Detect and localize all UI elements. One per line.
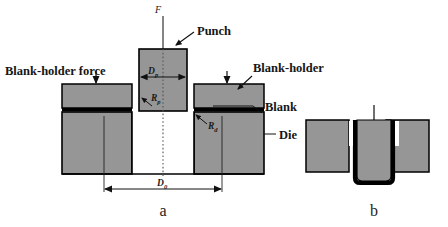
punch-label: Punch bbox=[197, 24, 231, 38]
panel-b-left-block bbox=[306, 120, 349, 172]
panel-a-caption: a bbox=[159, 202, 166, 219]
punch-force-label: F bbox=[154, 4, 162, 15]
punch-radius-symbol: R bbox=[150, 93, 157, 103]
blank-holder-left bbox=[62, 84, 132, 108]
panel-a: F Punch Blank-holder force Blank-holder … bbox=[5, 4, 324, 219]
die-radius-symbol: R bbox=[207, 121, 214, 131]
blank-holder-right bbox=[194, 84, 264, 108]
figure-canvas: F Punch Blank-holder force Blank-holder … bbox=[0, 0, 448, 227]
blank-diameter-symbol: D bbox=[156, 178, 164, 188]
blank-label: Blank bbox=[265, 100, 297, 114]
punch-diameter-symbol: D bbox=[147, 66, 155, 76]
punch-label-leader bbox=[176, 32, 194, 45]
panel-b-caption: b bbox=[370, 202, 378, 219]
blank-holder-force-label: Blank-holder force bbox=[5, 64, 106, 78]
die-label: Die bbox=[279, 128, 298, 142]
panel-b-center-block bbox=[357, 120, 391, 181]
blank-holder-label: Blank-holder bbox=[253, 61, 324, 75]
panel-b: b bbox=[306, 105, 429, 219]
blank-diameter-label: D0 bbox=[156, 178, 168, 190]
die-right bbox=[194, 112, 264, 174]
die-left bbox=[62, 112, 132, 174]
deep-drawing-figure: F Punch Blank-holder force Blank-holder … bbox=[0, 0, 448, 227]
